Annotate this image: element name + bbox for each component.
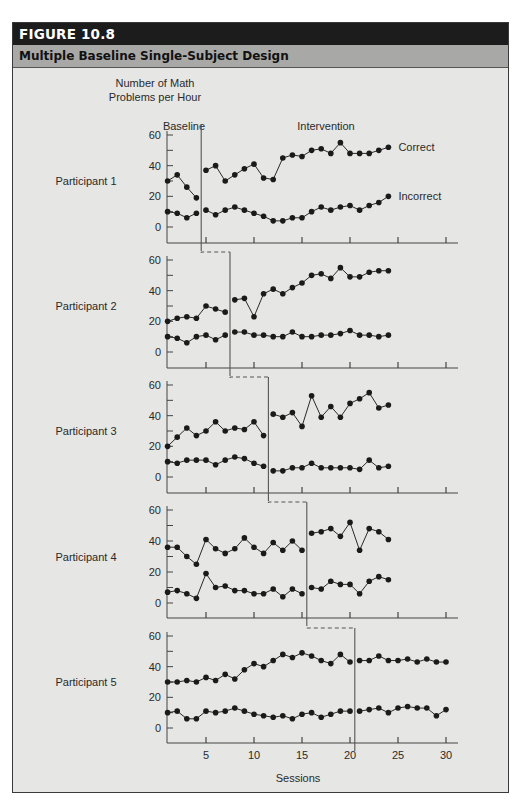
data-point <box>299 548 305 554</box>
data-point <box>232 705 238 711</box>
data-point <box>376 268 382 274</box>
data-point <box>222 207 228 213</box>
data-point <box>232 329 238 335</box>
data-point <box>318 465 324 471</box>
x-tick-label: 25 <box>392 749 404 761</box>
data-point <box>280 218 286 224</box>
data-point <box>366 203 372 209</box>
y-tick-label: 40 <box>149 410 161 422</box>
data-point <box>395 658 401 664</box>
data-point <box>242 588 248 594</box>
data-point <box>242 708 248 714</box>
data-point <box>386 194 392 200</box>
data-point <box>318 204 324 210</box>
x-tick-label: 15 <box>296 749 308 761</box>
data-point <box>347 582 353 588</box>
series-line-incorrect <box>168 212 197 218</box>
data-point <box>290 285 296 291</box>
y-tick-label: 60 <box>149 630 161 642</box>
data-point <box>357 274 363 280</box>
data-point <box>290 586 296 592</box>
data-point <box>366 707 372 713</box>
data-point <box>376 574 382 580</box>
data-point <box>242 535 248 541</box>
data-point <box>280 155 286 161</box>
data-point <box>386 710 392 716</box>
data-point <box>338 265 344 271</box>
x-tick-label: 10 <box>248 749 260 761</box>
y-tick-label: 40 <box>149 285 161 297</box>
data-point <box>376 405 382 411</box>
data-point <box>203 675 209 681</box>
data-point <box>174 460 180 466</box>
data-point <box>328 404 334 410</box>
y-tick-label: 40 <box>149 160 161 172</box>
data-point <box>280 414 286 420</box>
data-point <box>194 195 200 201</box>
data-point <box>251 591 257 597</box>
data-point <box>290 465 296 471</box>
series-line-correct <box>360 656 446 662</box>
data-point <box>194 679 200 685</box>
panel-participant-2 <box>165 252 458 376</box>
data-point <box>232 676 238 682</box>
data-point <box>222 309 228 315</box>
data-point <box>299 591 305 597</box>
data-point <box>318 332 324 338</box>
data-point <box>299 424 305 430</box>
y-tick-label: 40 <box>149 661 161 673</box>
data-point <box>184 716 190 722</box>
x-tick-label: 20 <box>344 749 356 761</box>
y-tick-label: 20 <box>149 190 161 202</box>
data-point <box>338 652 344 658</box>
data-point <box>338 708 344 714</box>
data-point <box>290 716 296 722</box>
data-point <box>366 658 372 664</box>
series-line-correct <box>312 522 389 550</box>
data-point <box>376 200 382 206</box>
data-point <box>424 705 430 711</box>
data-point <box>242 667 248 673</box>
participant-label: Participant 4 <box>55 551 116 563</box>
panel-participant-5 <box>165 628 458 751</box>
data-point <box>165 544 171 550</box>
data-point <box>357 207 363 213</box>
participant-label: Participant 2 <box>55 300 116 312</box>
y-tick-label: 60 <box>149 504 161 516</box>
data-point <box>299 465 305 471</box>
data-point <box>318 271 324 277</box>
data-point <box>261 291 267 297</box>
data-point <box>318 529 324 535</box>
data-point <box>213 163 219 169</box>
data-point <box>251 419 257 425</box>
data-point <box>270 540 276 546</box>
data-point <box>174 210 180 216</box>
data-point <box>318 658 324 664</box>
data-point <box>194 210 200 216</box>
data-point <box>347 151 353 157</box>
data-point <box>213 546 219 552</box>
data-point <box>174 708 180 714</box>
data-point <box>328 465 334 471</box>
data-point <box>309 710 315 716</box>
series-line-incorrect <box>360 707 446 716</box>
data-point <box>251 210 257 216</box>
data-point <box>366 526 372 532</box>
data-point <box>261 713 267 719</box>
y-tick-label: 40 <box>149 535 161 547</box>
data-point <box>203 303 209 309</box>
data-point <box>347 520 353 526</box>
data-point <box>261 433 267 439</box>
data-point <box>222 332 228 338</box>
data-point <box>174 315 180 321</box>
data-point <box>222 178 228 184</box>
data-point <box>165 319 171 325</box>
data-point <box>328 526 334 532</box>
data-point <box>424 656 430 662</box>
data-point <box>270 218 276 224</box>
data-point <box>174 172 180 178</box>
legend-incorrect: Incorrect <box>398 190 441 202</box>
data-point <box>309 460 315 466</box>
data-point <box>222 457 228 463</box>
data-point <box>309 530 315 536</box>
